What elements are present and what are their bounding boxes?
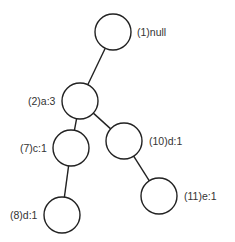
tree-diagram: (1)null(2)a:3(7)c:1(10)d:1(8)d:1(11)e:1	[0, 0, 235, 242]
tree-node-10	[106, 123, 142, 159]
edge-10-11	[134, 156, 150, 181]
edge-2-7	[74, 119, 76, 131]
node-label-7: (7)c:1	[20, 142, 47, 154]
node-label-8: (8)d:1	[10, 209, 38, 221]
tree-node-1	[95, 14, 131, 50]
edge-1-2	[88, 48, 105, 85]
edge-7-8	[64, 166, 68, 197]
labels: (1)null(2)a:3(7)c:1(10)d:1(8)d:1(11)e:1	[10, 26, 217, 221]
tree-node-11	[141, 178, 177, 214]
tree-node-8	[44, 197, 80, 233]
node-label-11: (11)e:1	[184, 190, 217, 202]
tree-node-2	[62, 83, 98, 119]
node-label-2: (2)a:3	[28, 95, 56, 107]
edge-2-10	[93, 113, 110, 129]
tree-node-7	[53, 130, 89, 166]
node-label-10: (10)d:1	[149, 135, 182, 147]
nodes	[44, 14, 177, 233]
edges	[64, 48, 149, 197]
node-label-1: (1)null	[137, 26, 166, 38]
